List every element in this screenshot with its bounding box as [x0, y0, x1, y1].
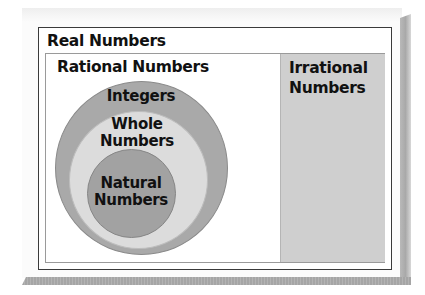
natural-label-line1: Natural: [88, 175, 174, 192]
rational-numbers-label: Rational Numbers: [57, 58, 209, 76]
real-numbers-label: Real Numbers: [47, 32, 166, 50]
whole-label-line1: Whole: [92, 116, 182, 133]
integers-label: Integers: [101, 88, 181, 105]
irrational-label-line2: Numbers: [289, 78, 368, 98]
irrational-label-line1: Irrational: [289, 58, 368, 78]
whole-numbers-label: Whole Numbers: [92, 116, 182, 150]
irrational-numbers-label: Irrational Numbers: [289, 58, 368, 98]
whole-label-line2: Numbers: [92, 133, 182, 150]
natural-numbers-label: Natural Numbers: [88, 175, 174, 209]
card-shadow-bottom: [22, 277, 411, 285]
natural-label-line2: Numbers: [88, 192, 174, 209]
card-shadow-right: [400, 14, 411, 284]
